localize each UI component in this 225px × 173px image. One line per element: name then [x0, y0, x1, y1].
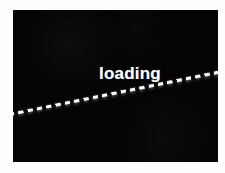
dashed-progress-line: [13, 10, 218, 162]
screen-frame: loading: [0, 0, 225, 173]
loading-screen: loading: [13, 10, 218, 162]
loading-status-label: loading: [99, 65, 161, 83]
screen-noise-overlay: [13, 10, 218, 162]
